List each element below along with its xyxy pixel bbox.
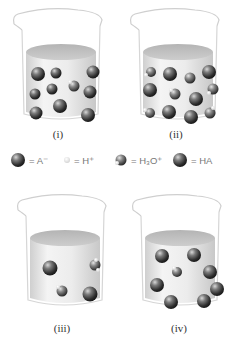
beaker-label-ii: (ii) bbox=[156, 128, 196, 140]
legend-text-ha: = HA bbox=[191, 155, 212, 166]
beaker-iv-drawing bbox=[127, 188, 231, 316]
proton-sphere-icon bbox=[63, 155, 71, 165]
beaker-label-i: (i) bbox=[38, 128, 78, 140]
legend-text-hydronium: = H₃O⁺ bbox=[131, 155, 162, 166]
legend-text-proton: = H⁺ bbox=[74, 155, 94, 166]
legend-item-anion: = A⁻ bbox=[10, 150, 48, 170]
legend-text-anion: = A⁻ bbox=[29, 155, 48, 166]
beaker-label-iv: (iv) bbox=[159, 322, 199, 334]
anion-sphere-icon bbox=[10, 152, 26, 168]
legend-item-proton: = H⁺ bbox=[63, 150, 94, 170]
legend: = A⁻ = H⁺ = H₃O⁺ = HA bbox=[0, 150, 236, 170]
beaker-iv bbox=[127, 188, 231, 316]
beaker-label-iii: (iii) bbox=[42, 322, 82, 334]
beaker-iii-drawing bbox=[12, 188, 116, 316]
anion-icon bbox=[30, 107, 43, 120]
legend-item-hydronium: = H₃O⁺ bbox=[114, 150, 162, 170]
hydronium-sphere-icon bbox=[114, 153, 128, 167]
beaker-iii bbox=[12, 188, 116, 316]
acid-molecule-sphere-icon bbox=[172, 152, 188, 168]
beaker-i-drawing bbox=[8, 2, 112, 130]
legend-item-ha: = HA bbox=[172, 150, 212, 170]
beaker-i bbox=[8, 2, 112, 130]
beaker-ii bbox=[125, 2, 229, 130]
beaker-ii-drawing bbox=[125, 2, 229, 130]
